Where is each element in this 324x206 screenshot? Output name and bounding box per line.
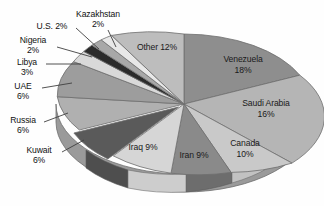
slice-external-label-us: U.S. 2% — [26, 22, 78, 32]
label-uae-value: 6% — [4, 92, 42, 102]
slice-external-label-libya: Libya 3% — [8, 58, 46, 77]
pie-chart: Other 12% Venezuela 18% Saudi Arabia 16%… — [0, 0, 324, 206]
slice-external-label-russia: Russia 6% — [2, 116, 44, 135]
slice-label-venezuela-value: 18% — [235, 65, 252, 75]
label-kuwait-value: 6% — [16, 156, 62, 166]
slice-label-iran: Iran 9% — [180, 150, 209, 160]
slice-label-saudi-arabia: Saudi Arabia — [242, 98, 290, 108]
leader-line-us — [76, 28, 99, 49]
label-nigeria-value: 2% — [10, 46, 56, 56]
label-us-name: U.S. 2% — [26, 22, 78, 32]
slice-label-venezuela: Venezuela — [223, 54, 263, 64]
slice-label-canada: Canada — [230, 138, 260, 148]
slice-external-label-kuwait: Kuwait 6% — [16, 146, 62, 165]
slice-label-iraq: Iraq 9% — [129, 142, 158, 152]
slice-label-canada-value: 10% — [237, 149, 254, 159]
label-libya-value: 3% — [8, 68, 46, 78]
slice-label-saudi-arabia-value: 16% — [258, 109, 275, 119]
slice-external-label-nigeria: Nigeria 2% — [10, 36, 56, 55]
slice-external-label-uae: UAE 6% — [4, 82, 42, 101]
slice-label-other: Other 12% — [137, 42, 178, 52]
label-russia-value: 6% — [2, 126, 44, 136]
